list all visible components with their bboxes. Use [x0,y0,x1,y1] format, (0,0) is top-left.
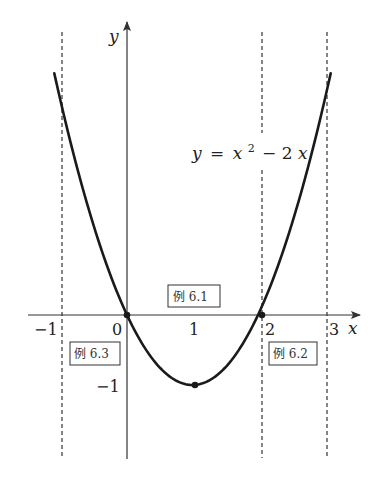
svg-text:例 6.3: 例 6.3 [74,347,109,361]
tick-x-minus1: −1 [34,320,58,339]
svg-text:例 6.2: 例 6.2 [273,347,308,361]
tick-x-2: 2 [265,320,275,339]
point-x2 [259,312,266,319]
tick-x-0: 0 [112,320,122,339]
tick-x-1: 1 [189,320,199,339]
point-origin [124,312,131,319]
tick-x-3: 3 [329,320,339,339]
example-box-6-1: 例 6.1 [168,285,220,307]
point-vertex [192,382,199,389]
function-label: y = x 2 − 2 x [191,136,308,163]
parabola-figure: y x −1 0 1 2 3 −1 y = x 2 − 2 x 例 6.1 例 … [0,0,383,482]
svg-text:例 6.1: 例 6.1 [173,290,208,304]
example-box-6-2: 例 6.2 [269,342,317,365]
x-axis-label: x [348,318,358,338]
y-axis-label: y [108,26,119,46]
tick-y-minus1: −1 [96,377,120,396]
example-box-6-3: 例 6.3 [70,342,120,365]
